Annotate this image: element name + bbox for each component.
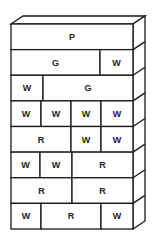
brick: W (11, 152, 40, 178)
brick-label: W (22, 211, 31, 221)
brick: R (72, 152, 133, 178)
brick: W (11, 203, 41, 229)
brick-label: W (113, 135, 122, 145)
brick: R (11, 178, 72, 204)
brick-label: W (52, 160, 61, 170)
top-face (11, 16, 145, 24)
brick: W (71, 101, 101, 127)
brick: W (100, 50, 133, 76)
brick-label: R (38, 135, 45, 145)
brick: P (11, 24, 133, 50)
brick-label: W (22, 109, 31, 119)
brick-stack-diagram: PGWWGWWWWRWWWWRRRWRW (0, 0, 154, 241)
brick-label: W (113, 211, 122, 221)
brick: G (43, 75, 133, 101)
brick-label: R (99, 186, 106, 196)
brick-label: W (21, 160, 30, 170)
brick-label: G (52, 58, 59, 68)
brick: W (71, 127, 101, 153)
brick: R (11, 127, 71, 153)
brick-label: W (82, 109, 91, 119)
brick: W (11, 101, 41, 127)
brick-label: R (99, 160, 106, 170)
brick: R (41, 203, 101, 229)
brick-label: W (112, 58, 121, 68)
brick: W (101, 203, 133, 229)
brick: R (72, 178, 133, 204)
brick: W (101, 127, 133, 153)
brick-label: R (68, 211, 75, 221)
brick-label: W (23, 83, 32, 93)
brick: W (101, 101, 133, 127)
brick-label: W (113, 109, 122, 119)
bricks: PGWWGWWWWRWWWWRRRWRW (11, 24, 133, 229)
brick-label: W (82, 135, 91, 145)
brick: W (11, 75, 43, 101)
brick: W (40, 152, 72, 178)
brick-label: G (84, 83, 91, 93)
brick: W (41, 101, 71, 127)
brick: G (11, 50, 100, 76)
brick-label: W (52, 109, 61, 119)
brick-label: R (38, 186, 45, 196)
brick-label: P (69, 32, 75, 42)
